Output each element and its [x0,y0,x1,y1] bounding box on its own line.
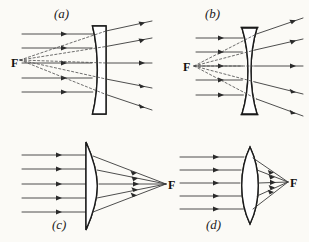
panel-d: F (d) [180,147,297,232]
panel-d-lens [237,147,263,224]
focus-label-d: F [290,176,297,190]
panel-a-refracted-rays [106,21,152,110]
panel-b-refracted-rays [255,18,304,116]
focus-label-b: F [183,60,190,74]
panel-c: F (c) [22,142,175,232]
panel-d-incoming-rays [180,154,244,211]
panel-c-lens [83,142,105,230]
focus-label-c: F [168,178,175,192]
lens-diagram-canvas: F (a) [0,0,309,242]
optics-figure: F (a) [0,0,309,242]
focus-label-a: F [11,56,18,70]
panel-label-d: (d) [206,217,221,232]
panel-c-incoming-rays [22,152,86,214]
panel-b-lens [238,27,262,114]
panel-b-incoming-rays [196,35,243,97]
panel-a-lens [90,26,108,114]
panel-a: F (a) [11,6,152,114]
panel-label-b: (b) [205,6,220,21]
panel-c-refracted-rays [93,156,166,212]
panel-b: F (b) [183,6,303,116]
panel-label-a: (a) [54,6,69,21]
panel-label-c: (c) [52,217,66,232]
